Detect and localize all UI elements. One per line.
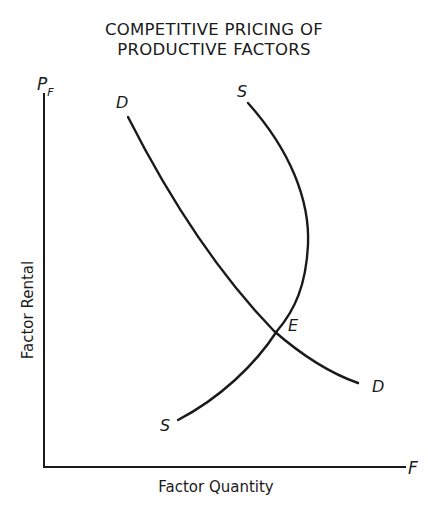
y-axis-symbol: PF	[37, 76, 54, 99]
supply-label-top: S	[237, 84, 247, 100]
demand-label-top: D	[116, 95, 128, 111]
y-axis-label: Factor Rental	[19, 261, 37, 359]
supply-curve	[178, 103, 308, 420]
plot-area	[0, 0, 428, 507]
demand-label-bottom: D	[372, 379, 384, 395]
x-axis-label: Factor Quantity	[158, 478, 274, 496]
demand-curve	[128, 117, 358, 383]
x-axis-symbol: F	[408, 460, 418, 476]
supply-label-bottom: S	[160, 418, 170, 434]
equilibrium-label: E	[288, 318, 298, 334]
